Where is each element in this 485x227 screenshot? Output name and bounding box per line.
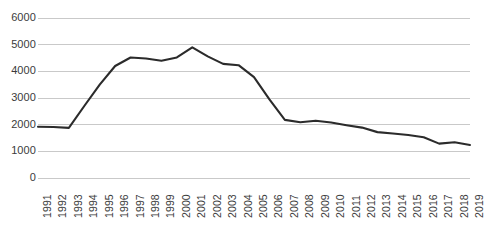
x-axis-tick-label: 2003 — [227, 194, 238, 218]
x-axis-tick-label: 2015 — [412, 194, 423, 218]
x-axis-tick-label: 2010 — [335, 194, 346, 218]
x-axis-tick-label: 2018 — [459, 194, 470, 218]
x-axis-tick-label: 2013 — [381, 194, 392, 218]
x-axis-tick-label: 2004 — [243, 194, 254, 218]
x-axis-tick-label: 1995 — [104, 194, 115, 218]
x-axis-tick-label: 2012 — [366, 194, 377, 218]
x-axis-tick-label: 2009 — [320, 194, 331, 218]
x-axis-tick-label: 2002 — [212, 194, 223, 218]
x-axis-tick-label: 2000 — [181, 194, 192, 218]
x-axis-tick-label: 2008 — [304, 194, 315, 218]
x-axis-tick-label: 2001 — [196, 194, 207, 218]
x-axis-tick-label: 1998 — [150, 194, 161, 218]
x-axis-tick-label: 2006 — [273, 194, 284, 218]
x-axis-tick-label: 2019 — [474, 194, 485, 218]
x-axis-tick-label: 2014 — [397, 194, 408, 218]
x-axis-tick-label: 1991 — [42, 194, 53, 218]
x-axis-tick-label: 1996 — [119, 194, 130, 218]
x-axis-tick-label: 1994 — [88, 194, 99, 218]
x-axis-tick-label: 2017 — [443, 194, 454, 218]
x-axis-tick-label: 2011 — [351, 195, 362, 218]
x-axis-tick-label: 2007 — [289, 194, 300, 218]
x-axis-tick-label: 2005 — [258, 194, 269, 218]
x-axis-tick-label: 2016 — [428, 194, 439, 218]
x-axis-tick-label: 1993 — [73, 194, 84, 218]
x-axis-tick-label: 1997 — [135, 194, 146, 218]
x-axis-tick-label: 1999 — [165, 194, 176, 218]
x-axis-tick-label: 1992 — [57, 194, 68, 218]
